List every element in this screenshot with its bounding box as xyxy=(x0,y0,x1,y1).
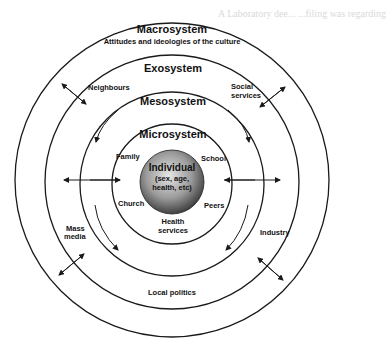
health-services-label-1: Health xyxy=(155,218,191,226)
individual-sub-2: health, etc) xyxy=(140,184,204,192)
health-services-label-2: services xyxy=(152,227,194,235)
church-label: Church xyxy=(118,200,144,208)
individual-label: Individual xyxy=(140,163,204,174)
macrosystem-label: Macrosystem xyxy=(132,24,212,36)
microsystem-label: Microsystem xyxy=(134,129,212,141)
industry-label: Industry xyxy=(260,229,290,237)
neighbours-label: Neighbours xyxy=(88,84,130,92)
macrosystem-subtitle: Attitudes and ideologies of the culture xyxy=(102,38,242,46)
family-label: Family xyxy=(116,153,140,161)
mass-media-label-2: media xyxy=(64,233,86,241)
local-politics-label: Local politics xyxy=(140,289,204,297)
social-services-label-1: Social xyxy=(231,83,253,91)
school-label: School xyxy=(201,155,226,163)
mesosystem-label: Mesosystem xyxy=(134,96,212,108)
individual-sub-1: (sex, age, xyxy=(140,175,204,183)
exosystem-label: Exosystem xyxy=(136,63,210,75)
social-services-label-2: services xyxy=(231,92,261,100)
peers-label: Peers xyxy=(204,202,224,210)
